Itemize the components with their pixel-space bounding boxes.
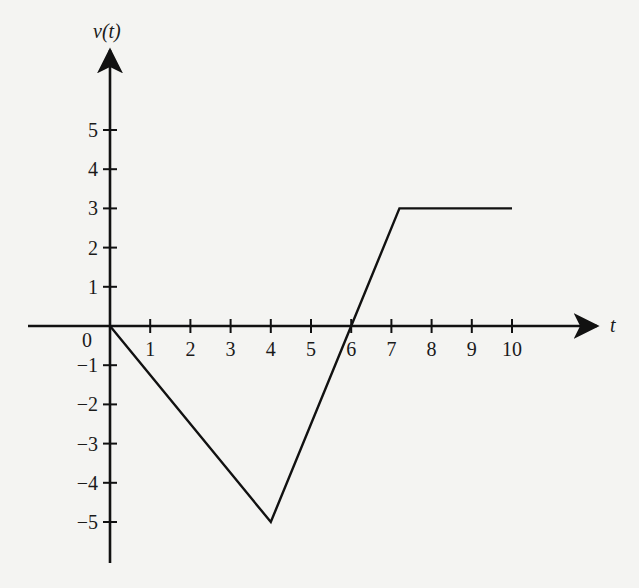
y-tick-label: 4 [88,158,98,180]
x-tick-label: 3 [226,338,236,360]
y-tick-label: −4 [77,472,98,494]
y-tick-label: 3 [88,197,98,219]
y-tick-label: −1 [77,354,98,376]
x-tick-label: 6 [346,338,356,360]
y-tick-label: 5 [88,119,98,141]
x-tick-label: 10 [502,338,522,360]
y-tick-label: −3 [77,433,98,455]
data-line-v-t [110,208,512,522]
y-tick-label: 2 [88,237,98,259]
y-tick-label: 1 [88,276,98,298]
line-chart: 12345678910−5−4−3−2−112345 v(t) t 0 [0,0,639,588]
y-tick-label: −5 [77,511,98,533]
x-tick-label: 4 [266,338,276,360]
x-tick-label: 1 [145,338,155,360]
x-axis-label: t [610,314,616,336]
origin-label: 0 [82,329,92,351]
y-tick-label: −2 [77,393,98,415]
x-tick-label: 7 [386,338,396,360]
x-tick-label: 5 [306,338,316,360]
y-axis-label: v(t) [93,20,121,43]
axes [28,50,597,563]
x-tick-label: 9 [467,338,477,360]
x-tick-label: 8 [427,338,437,360]
x-tick-label: 2 [185,338,195,360]
